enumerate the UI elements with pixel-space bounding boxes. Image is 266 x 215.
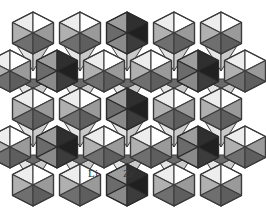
- lattice-body: [0, 12, 266, 206]
- octahedra-row-4: [13, 164, 242, 206]
- octahedron-dark: [107, 164, 148, 206]
- figure-canvas: Li Zr: [0, 0, 266, 215]
- octahedron-light: [60, 164, 101, 206]
- octahedron-light: [13, 164, 54, 206]
- octahedra-lattice: [0, 0, 266, 215]
- octahedron-light: [201, 164, 242, 206]
- octahedron-light: [154, 164, 195, 206]
